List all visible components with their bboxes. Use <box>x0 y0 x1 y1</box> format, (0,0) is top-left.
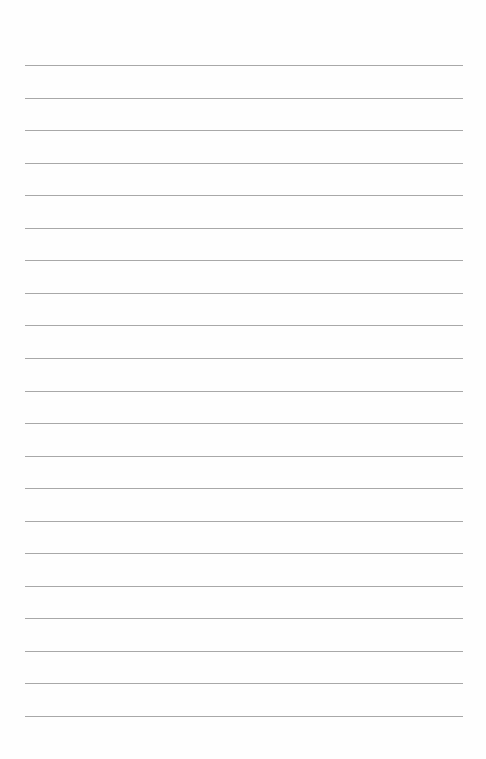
ruled-line <box>25 293 463 294</box>
ruled-line <box>25 488 463 489</box>
ruled-line <box>25 553 463 554</box>
ruled-line <box>25 586 463 587</box>
ruled-line <box>25 260 463 261</box>
ruled-line <box>25 391 463 392</box>
ruled-line <box>25 163 463 164</box>
ruled-line <box>25 130 463 131</box>
ruled-line <box>25 358 463 359</box>
ruled-line <box>25 456 463 457</box>
ruled-line <box>25 228 463 229</box>
ruled-line <box>25 98 463 99</box>
ruled-line <box>25 195 463 196</box>
ruled-line <box>25 618 463 619</box>
ruled-line <box>25 521 463 522</box>
ruled-line <box>25 651 463 652</box>
ruled-line <box>25 325 463 326</box>
ruled-line <box>25 65 463 66</box>
ruled-line <box>25 716 463 717</box>
ruled-line <box>25 423 463 424</box>
lined-paper-sheet <box>0 0 486 759</box>
ruled-line <box>25 683 463 684</box>
